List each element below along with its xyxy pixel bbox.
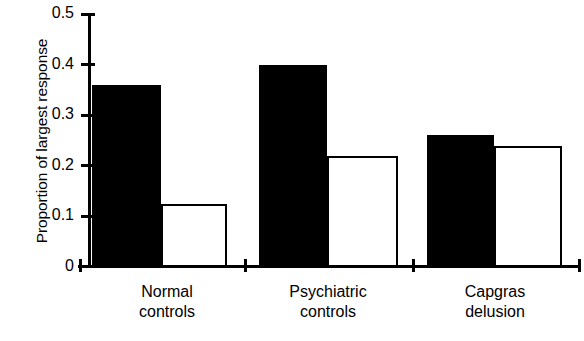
category-label-line: Capgras bbox=[420, 282, 570, 302]
x-axis-end-tick bbox=[578, 259, 581, 272]
category-label-normal-controls: Normal controls bbox=[92, 282, 242, 322]
bar-capgras-delusion-filled bbox=[427, 135, 494, 267]
y-tick-label: 0.3 bbox=[8, 106, 74, 122]
category-label-line: delusion bbox=[420, 302, 570, 322]
y-tick-label: 0.4 bbox=[8, 56, 74, 72]
category-label-line: controls bbox=[253, 302, 403, 322]
category-label-line: controls bbox=[92, 302, 242, 322]
group-separator-tick bbox=[244, 259, 247, 272]
bar-psychiatric-controls-filled bbox=[259, 65, 327, 267]
bar-chart-figure: Proportion of largest response 0.5 0.4 0… bbox=[0, 0, 584, 341]
y-axis-title: Proportion of largest response bbox=[33, 3, 51, 279]
y-tick-mark bbox=[81, 13, 95, 16]
group-separator-tick bbox=[412, 259, 415, 272]
category-label-capgras-delusion: Capgras delusion bbox=[420, 282, 570, 322]
bar-psychiatric-controls-open bbox=[327, 156, 398, 267]
y-tick-mark bbox=[81, 63, 95, 66]
x-axis-start-tick bbox=[79, 259, 82, 272]
y-tick-label: 0.5 bbox=[8, 5, 74, 21]
y-tick-label: 0.1 bbox=[8, 207, 74, 223]
category-label-psychiatric-controls: Psychiatric controls bbox=[253, 282, 403, 322]
category-label-line: Psychiatric bbox=[253, 282, 403, 302]
category-label-line: Normal bbox=[92, 282, 242, 302]
bar-normal-controls-open bbox=[161, 204, 227, 267]
y-tick-label: 0.2 bbox=[8, 157, 74, 173]
bar-capgras-delusion-open bbox=[494, 146, 562, 267]
y-axis-line bbox=[88, 13, 91, 268]
y-tick-label: 0 bbox=[8, 258, 74, 274]
bar-normal-controls-filled bbox=[92, 85, 161, 267]
